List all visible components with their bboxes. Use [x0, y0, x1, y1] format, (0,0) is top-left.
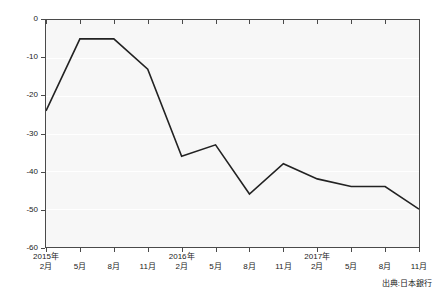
x-tick-year [243, 252, 255, 262]
x-tick-label: 2016年2月 [169, 252, 195, 271]
x-tick-label: 8月 [379, 252, 391, 271]
y-tick-label: -60 [26, 244, 38, 252]
plot-area [45, 19, 420, 248]
x-tick-year [275, 252, 291, 262]
x-tick-month: 2月 [304, 262, 330, 272]
x-tick-label: 8月 [108, 252, 120, 271]
x-tick-mark-top [148, 20, 149, 24]
x-tick-year [140, 252, 156, 262]
x-tick-year [379, 252, 391, 262]
x-tick-month: 11月 [411, 262, 427, 272]
x-tick-label: 5月 [209, 252, 221, 271]
x-tick-label: 5月 [74, 252, 86, 271]
y-tick-label: -40 [26, 168, 38, 176]
x-tick-month: 5月 [345, 262, 357, 272]
y-tick-label: 0 [34, 15, 38, 23]
x-tick-year: 2015年 [33, 252, 59, 262]
x-tick-month: 2月 [169, 262, 195, 272]
y-tick-label: -20 [26, 91, 38, 99]
x-tick-year [74, 252, 86, 262]
y-tick-label: -50 [26, 206, 38, 214]
x-axis: 2015年2月 5月 8月 11月2016年2月 5月 8月 11月2017年2… [45, 248, 420, 288]
x-tick-year: 2016年 [169, 252, 195, 262]
x-tick-label: 2017年2月 [304, 252, 330, 271]
line-series [46, 20, 419, 247]
x-tick-month: 5月 [74, 262, 86, 272]
x-tick-year [108, 252, 120, 262]
x-tick-label: 8月 [243, 252, 255, 271]
x-tick-mark-top [283, 20, 284, 24]
x-tick-label: 11月 [275, 252, 291, 271]
source-note: 出典:日本銀行 [382, 279, 432, 289]
x-tick-mark-top [80, 20, 81, 24]
x-tick-mark-top [351, 20, 352, 24]
x-tick-label: 11月 [411, 252, 427, 271]
chart-page: 0-10-20-30-40-50-60 2015年2月 5月 8月 11月201… [0, 0, 440, 297]
x-tick-month: 11月 [140, 262, 156, 272]
x-tick-mark-top [114, 20, 115, 24]
x-tick-label: 5月 [345, 252, 357, 271]
x-tick-month: 8月 [108, 262, 120, 272]
x-tick-mark-top [182, 20, 183, 24]
x-tick-label: 2015年2月 [33, 252, 59, 271]
x-tick-mark-top [385, 20, 386, 24]
x-tick-mark-top [216, 20, 217, 24]
y-tick-label: -10 [26, 53, 38, 61]
x-tick-mark-top [46, 20, 47, 24]
y-axis: 0-10-20-30-40-50-60 [0, 0, 45, 268]
x-tick-month: 8月 [379, 262, 391, 272]
x-tick-year [345, 252, 357, 262]
x-tick-year: 2017年 [304, 252, 330, 262]
x-tick-month: 2月 [33, 262, 59, 272]
x-tick-mark-top [317, 20, 318, 24]
x-tick-mark-top [419, 20, 420, 24]
x-tick-month: 5月 [209, 262, 221, 272]
x-tick-mark-top [249, 20, 250, 24]
x-tick-year [209, 252, 221, 262]
x-tick-month: 11月 [275, 262, 291, 272]
x-tick-month: 8月 [243, 262, 255, 272]
x-tick-label: 11月 [140, 252, 156, 271]
y-tick-label: -30 [26, 130, 38, 138]
x-tick-year [411, 252, 427, 262]
